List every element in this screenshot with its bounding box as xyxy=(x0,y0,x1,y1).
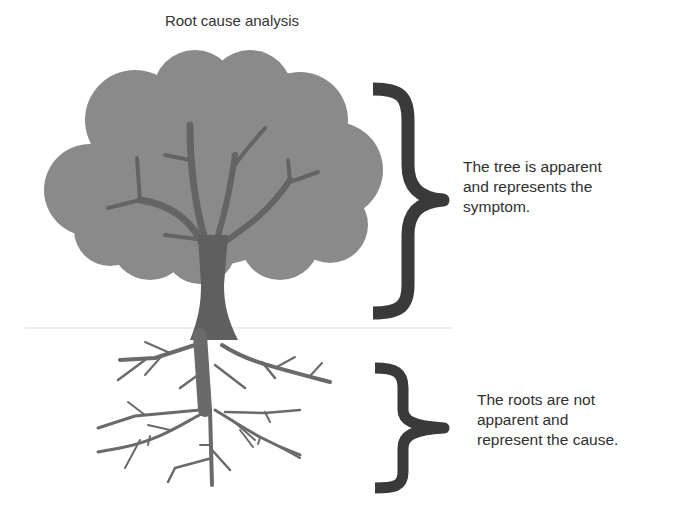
roots-brace-icon xyxy=(375,368,444,488)
tree-roots xyxy=(98,335,330,485)
tree-brace-icon xyxy=(373,89,443,313)
tree-description-line: and represents the xyxy=(463,177,693,197)
tree-description-line: The tree is apparent xyxy=(463,157,693,177)
roots-description-line: The roots are not xyxy=(477,390,697,410)
tree-description: The tree is apparent and represents the … xyxy=(463,157,693,217)
roots-description-line: represent the cause. xyxy=(477,430,697,450)
roots-description: The roots are not apparent and represent… xyxy=(477,390,697,450)
roots-description-line: apparent and xyxy=(477,410,697,430)
tree-description-line: symptom. xyxy=(463,197,693,217)
